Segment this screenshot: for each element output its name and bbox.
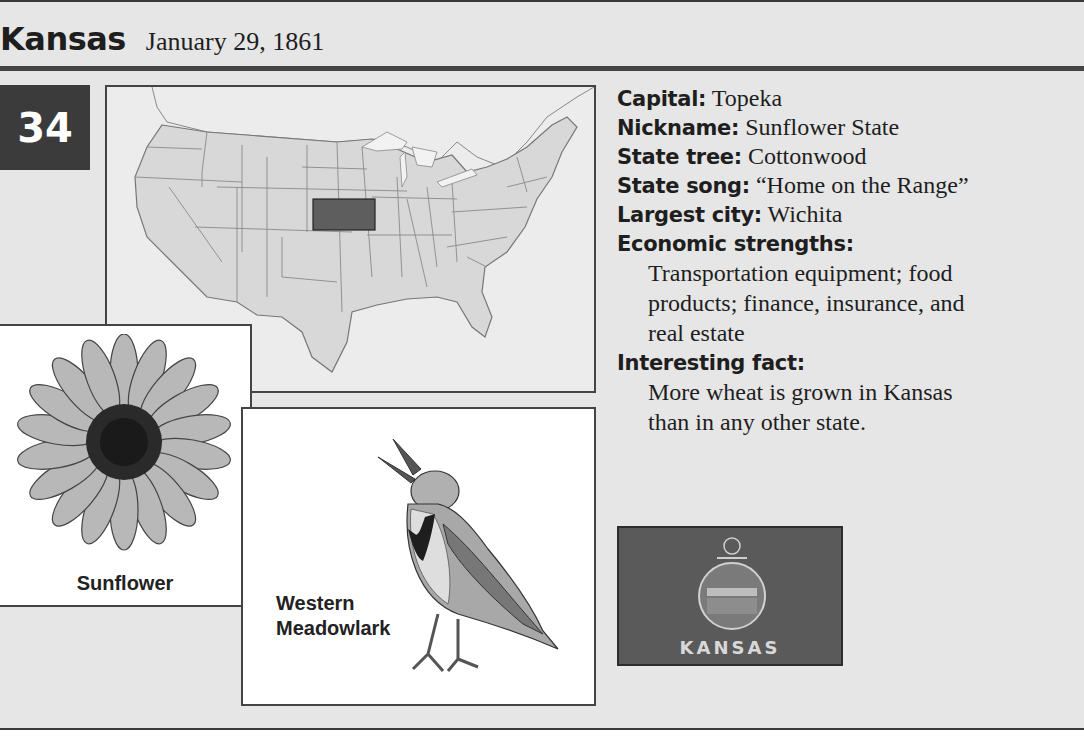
fact-interesting: Interesting fact:: [617, 348, 1077, 377]
tree-value: Cottonwood: [748, 143, 867, 169]
interesting-fact-label: Interesting fact:: [617, 351, 805, 375]
meadowlark-icon: [243, 409, 594, 704]
sunflower-icon: [0, 334, 250, 564]
flower-label: Sunflower: [0, 572, 250, 595]
city-label: Largest city:: [617, 203, 762, 227]
fact-nickname: Nickname: Sunflower State: [617, 113, 1077, 142]
capital-label: Capital:: [617, 87, 706, 111]
state-flag: KANSAS: [617, 526, 843, 666]
fact-song: State song: “Home on the Range”: [617, 171, 1077, 200]
bird-label-line1: Western: [276, 591, 390, 616]
admission-date: January 29, 1861: [146, 27, 324, 57]
fact-economy: Economic strengths:: [617, 229, 1077, 258]
fact-line: than in any other state.: [648, 407, 1077, 437]
economy-value: Transportation equipment; food products;…: [617, 258, 1077, 348]
fact-tree: State tree: Cottonwood: [617, 142, 1077, 171]
nickname-label: Nickname:: [617, 116, 739, 140]
fact-line: More wheat is grown in Kansas: [648, 377, 1077, 407]
state-number-badge: 34: [0, 85, 90, 170]
state-flower-card: Sunflower: [0, 324, 252, 607]
song-label: State song:: [617, 174, 750, 198]
state-fact-card: Kansas January 29, 1861 34: [0, 0, 1084, 730]
capital-value: Topeka: [712, 85, 782, 111]
bird-label-line2: Meadowlark: [276, 616, 390, 641]
state-name: Kansas: [0, 20, 126, 58]
economy-line: real estate: [648, 318, 1077, 348]
facts-list: Capital: Topeka Nickname: Sunflower Stat…: [617, 84, 1077, 437]
bird-label: Western Meadowlark: [276, 591, 390, 641]
interesting-fact-value: More wheat is grown in Kansas than in an…: [617, 377, 1077, 437]
header-rule: [0, 66, 1084, 71]
economy-line: products; finance, insurance, and: [648, 288, 1077, 318]
fact-capital: Capital: Topeka: [617, 84, 1077, 113]
kansas-highlight: [313, 199, 375, 230]
state-bird-card: Western Meadowlark: [241, 407, 596, 706]
song-value: “Home on the Range”: [756, 172, 969, 198]
flag-text: KANSAS: [619, 637, 841, 658]
economy-label: Economic strengths:: [617, 232, 854, 256]
state-number: 34: [17, 105, 73, 151]
economy-line: Transportation equipment; food: [648, 258, 1077, 288]
nickname-value: Sunflower State: [745, 114, 899, 140]
title-row: Kansas January 29, 1861: [0, 20, 324, 64]
fact-city: Largest city: Wichita: [617, 200, 1077, 229]
city-value: Wichita: [767, 201, 842, 227]
tree-label: State tree:: [617, 145, 742, 169]
